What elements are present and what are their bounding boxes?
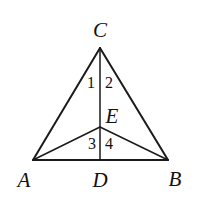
geometry-figure: C 1 2 E 3 4 A D B — [0, 0, 198, 206]
angle-label-1: 1 — [87, 75, 95, 91]
vertex-label-B: B — [169, 169, 182, 190]
angle-label-3: 3 — [88, 136, 96, 152]
angle-label-2: 2 — [105, 75, 113, 91]
vertex-label-E: E — [106, 106, 119, 127]
vertex-label-C: C — [93, 20, 107, 41]
angle-label-4: 4 — [105, 136, 113, 152]
vertex-label-A: A — [18, 170, 31, 191]
vertex-label-D: D — [92, 170, 107, 191]
